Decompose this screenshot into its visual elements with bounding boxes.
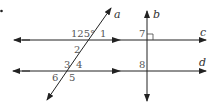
parallel-mark-icon [112, 37, 121, 43]
label-d: d [199, 56, 206, 69]
angle-2: 2 [74, 44, 80, 55]
angle-1: 1 [100, 28, 106, 39]
label-a: a [114, 8, 121, 21]
label-c: c [200, 26, 206, 39]
angle-5: 5 [69, 72, 75, 83]
angle-6: 6 [52, 72, 58, 83]
angle-8: 8 [139, 59, 145, 70]
angle-7: 7 [139, 28, 145, 39]
line-b [147, 11, 153, 101]
bullet-dot [0, 10, 3, 13]
right-angle-mark-icon [147, 34, 153, 40]
line-c [14, 37, 206, 43]
angle-given: 125° [71, 28, 95, 39]
label-b: b [153, 8, 160, 21]
angle-3: 3 [64, 59, 70, 70]
parallel-mark-icon [112, 68, 121, 74]
line-d [13, 68, 206, 74]
angle-4: 4 [76, 59, 82, 70]
geometry-figure: a b c d 125° 1 2 3 4 5 6 7 8 [0, 0, 212, 108]
